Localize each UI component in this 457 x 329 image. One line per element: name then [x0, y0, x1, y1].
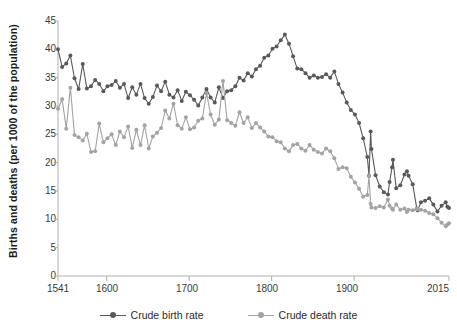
- data-point: [64, 62, 68, 66]
- data-point: [229, 121, 233, 125]
- data-point: [188, 127, 192, 131]
- data-point: [171, 102, 175, 106]
- data-point: [341, 165, 345, 169]
- data-point: [254, 121, 258, 125]
- data-point: [345, 101, 349, 105]
- legend-item-crude-death-rate[interactable]: Crude death rate: [248, 309, 358, 321]
- data-point: [291, 54, 295, 58]
- data-series-layer: [56, 33, 451, 229]
- data-point: [407, 174, 411, 178]
- data-point: [440, 204, 444, 208]
- data-point: [204, 87, 208, 91]
- data-point: [405, 169, 409, 173]
- data-point: [130, 146, 134, 150]
- data-point: [200, 116, 204, 120]
- data-point: [225, 89, 229, 93]
- data-point: [431, 203, 435, 207]
- data-point: [283, 147, 287, 151]
- data-point: [159, 126, 163, 130]
- data-point: [114, 79, 118, 83]
- data-point: [85, 86, 89, 90]
- data-point: [73, 76, 77, 80]
- data-point: [312, 148, 316, 152]
- data-point: [89, 84, 93, 88]
- data-point: [287, 149, 291, 153]
- data-point: [159, 89, 163, 93]
- data-point: [328, 149, 332, 153]
- data-point: [332, 69, 336, 73]
- data-point: [122, 135, 126, 139]
- data-point: [237, 110, 241, 114]
- data-point: [345, 166, 349, 170]
- data-point: [204, 91, 208, 95]
- data-point: [250, 126, 254, 130]
- data-point: [163, 80, 167, 84]
- data-point: [382, 205, 386, 209]
- data-point: [60, 97, 64, 101]
- data-point: [110, 83, 114, 87]
- data-point: [275, 139, 279, 143]
- data-point: [110, 132, 114, 136]
- data-point: [394, 186, 398, 190]
- data-point: [180, 99, 184, 103]
- data-point: [122, 82, 126, 86]
- chart-container: Births and deaths (per 1000 of the popul…: [0, 0, 457, 329]
- data-point: [447, 221, 451, 225]
- data-point: [221, 79, 225, 83]
- data-point: [242, 79, 246, 83]
- data-point: [89, 150, 93, 154]
- data-point: [320, 75, 324, 79]
- data-point: [308, 76, 312, 80]
- data-point: [176, 88, 180, 92]
- data-point: [134, 128, 138, 132]
- legend-marker-death-icon: [248, 311, 274, 320]
- data-point: [217, 118, 221, 122]
- data-point: [419, 208, 423, 212]
- data-point: [328, 76, 332, 80]
- data-point: [312, 73, 316, 77]
- data-point: [423, 209, 427, 213]
- data-point: [382, 190, 386, 194]
- data-point: [336, 82, 340, 86]
- data-point: [353, 181, 357, 185]
- data-point: [423, 199, 427, 203]
- data-point: [147, 147, 151, 151]
- data-point: [378, 184, 382, 188]
- data-point: [151, 95, 155, 99]
- legend-marker-birth-icon: [100, 311, 126, 320]
- data-point: [77, 135, 81, 139]
- data-point: [447, 206, 451, 210]
- data-point: [324, 72, 328, 76]
- data-point: [316, 76, 320, 80]
- data-point: [60, 65, 64, 69]
- data-point: [155, 131, 159, 135]
- x-tick-1541: 1541: [47, 283, 69, 294]
- data-point: [258, 64, 262, 68]
- data-point: [349, 108, 353, 112]
- data-point: [374, 173, 378, 177]
- legend-item-crude-birth-rate[interactable]: Crude birth rate: [100, 309, 204, 321]
- data-point: [81, 139, 85, 143]
- data-point: [97, 82, 101, 86]
- data-point: [287, 42, 291, 46]
- data-point: [411, 208, 415, 212]
- data-point: [213, 123, 217, 127]
- data-point: [73, 133, 77, 137]
- data-point: [143, 123, 147, 127]
- data-point: [283, 33, 287, 37]
- data-point: [237, 76, 241, 80]
- data-point: [56, 107, 60, 111]
- data-point: [101, 140, 105, 144]
- data-point: [93, 149, 97, 153]
- data-point: [184, 115, 188, 119]
- data-point: [427, 211, 431, 215]
- data-point: [435, 216, 439, 220]
- data-point: [388, 180, 392, 184]
- data-point: [295, 142, 299, 146]
- data-point: [369, 205, 373, 209]
- legend-label-death: Crude death rate: [279, 309, 358, 321]
- data-point: [85, 132, 89, 136]
- data-point: [180, 127, 184, 131]
- data-point: [365, 193, 369, 197]
- data-point: [308, 143, 312, 147]
